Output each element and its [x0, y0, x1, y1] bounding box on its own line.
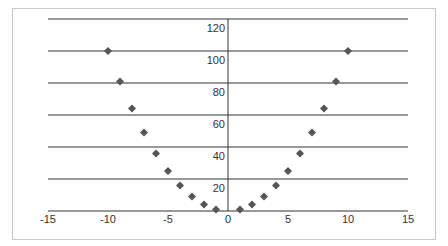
data-point-diamond-icon [344, 47, 352, 55]
x-tick-label: -10 [100, 213, 116, 225]
x-tick-label: 5 [285, 213, 291, 225]
data-point-diamond-icon [320, 105, 328, 113]
data-point-diamond-icon [104, 47, 112, 55]
x-tick-label: -15 [40, 213, 56, 225]
data-point-diamond-icon [248, 201, 256, 209]
x-tick-label: 15 [402, 213, 414, 225]
data-point-diamond-icon [152, 149, 160, 157]
y-tick-label: 120 [207, 22, 225, 34]
data-point-diamond-icon [236, 205, 244, 213]
data-point-diamond-icon [140, 129, 148, 137]
data-point-diamond-icon [188, 193, 196, 201]
y-tick-label: 100 [207, 54, 225, 66]
data-point-diamond-icon [128, 105, 136, 113]
data-point-diamond-icon [332, 77, 340, 85]
y-tick-label: 80 [213, 86, 225, 98]
data-point-diamond-icon [164, 167, 172, 175]
x-tick-label: 10 [342, 213, 354, 225]
data-point-diamond-icon [284, 167, 292, 175]
scatter-chart: 20406080100120-15-10-5051015 [0, 0, 448, 246]
y-tick-label: 20 [213, 182, 225, 194]
data-point-diamond-icon [308, 129, 316, 137]
y-tick-label: 60 [213, 118, 225, 130]
data-point-diamond-icon [212, 205, 220, 213]
data-point-diamond-icon [200, 201, 208, 209]
data-point-diamond-icon [116, 77, 124, 85]
x-tick-label: -5 [163, 213, 173, 225]
x-tick-label: 0 [225, 213, 231, 225]
data-point-diamond-icon [272, 181, 280, 189]
data-point-diamond-icon [176, 181, 184, 189]
data-point-diamond-icon [296, 149, 304, 157]
y-tick-label: 40 [213, 150, 225, 162]
data-point-diamond-icon [260, 193, 268, 201]
